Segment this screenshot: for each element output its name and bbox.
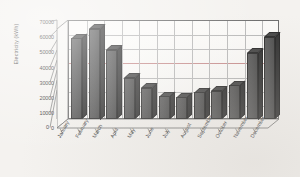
x-label-may: May xyxy=(126,127,136,139)
x-label-january: January xyxy=(56,120,70,139)
x-label-february: February xyxy=(74,118,89,139)
x-label-december: December xyxy=(249,115,266,139)
x-label-march: March xyxy=(91,123,103,139)
x-axis-labels: January February March April May June Ju… xyxy=(0,0,300,177)
x-label-november: November xyxy=(232,115,249,139)
x-label-july: July xyxy=(161,128,171,139)
x-label-april: April xyxy=(109,127,119,139)
x-label-august: August xyxy=(179,122,192,139)
chart-image: Electricity (kWh) 70000 60000 50000 4000… xyxy=(0,0,300,177)
x-label-september: September xyxy=(196,114,214,139)
x-label-october: October xyxy=(214,120,228,139)
x-label-june: June xyxy=(144,126,155,139)
